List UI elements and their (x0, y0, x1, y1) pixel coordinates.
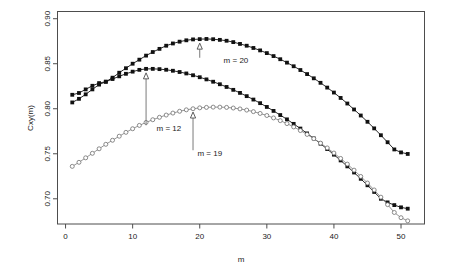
data-point (231, 88, 235, 92)
data-point (137, 58, 141, 62)
data-point (171, 42, 175, 46)
data-point (151, 118, 155, 122)
y-tick-label: 0.70 (43, 190, 52, 206)
data-point (225, 105, 229, 109)
data-point (366, 120, 370, 124)
data-point (245, 44, 249, 48)
data-point (124, 72, 128, 76)
data-point (265, 51, 269, 55)
data-point (70, 164, 74, 168)
x-axis-title: m (238, 255, 245, 264)
annotation-label: m = 19 (197, 149, 222, 158)
data-point (278, 57, 282, 61)
data-point (292, 64, 296, 68)
data-point (225, 85, 229, 89)
data-point (325, 86, 329, 90)
data-point (191, 73, 195, 77)
data-point (77, 91, 81, 95)
data-point (365, 181, 369, 185)
data-point (319, 81, 323, 85)
x-tick-label: 50 (397, 232, 406, 241)
data-point (285, 117, 289, 121)
data-point (178, 109, 182, 113)
data-point (164, 44, 168, 48)
data-point (131, 70, 135, 74)
data-point (372, 126, 376, 130)
data-point (312, 137, 316, 141)
data-point (205, 37, 209, 41)
data-point (372, 188, 376, 192)
data-point (238, 91, 242, 95)
data-point (272, 54, 276, 58)
data-point (171, 111, 175, 115)
y-axis-title: Cxy(m) (26, 105, 35, 131)
data-point (285, 61, 289, 65)
data-point (339, 156, 343, 160)
data-point (406, 207, 410, 211)
data-point (158, 47, 162, 51)
data-point (386, 203, 390, 207)
x-tick-label: 30 (262, 232, 271, 241)
data-point (252, 98, 256, 102)
data-point (90, 87, 94, 91)
data-point (111, 138, 115, 142)
data-point (278, 119, 282, 123)
data-point (238, 42, 242, 46)
y-tick-label: 0.85 (43, 55, 52, 71)
data-point (218, 82, 222, 86)
data-point (198, 106, 202, 110)
data-point (104, 80, 108, 84)
data-point (231, 106, 235, 110)
data-point (211, 80, 215, 84)
data-point (97, 83, 101, 87)
data-point (231, 40, 235, 44)
data-point (406, 152, 410, 156)
data-point (265, 105, 269, 109)
data-point (392, 210, 396, 214)
data-point (151, 67, 155, 71)
data-point (252, 46, 256, 50)
data-point (379, 133, 383, 137)
data-point (111, 77, 115, 81)
data-point (319, 141, 323, 145)
data-point (379, 195, 383, 199)
data-point (298, 68, 302, 72)
data-point (298, 129, 302, 133)
data-point (117, 74, 121, 78)
data-point (406, 219, 410, 223)
data-point (77, 160, 81, 164)
data-point (251, 110, 255, 114)
coherence-line-chart: 0.700.750.800.850.90 01020304050 Cxy(m) … (0, 0, 449, 275)
data-point (84, 87, 88, 91)
data-point (184, 38, 188, 42)
data-point (359, 174, 363, 178)
data-point (218, 105, 222, 109)
data-point (392, 148, 396, 152)
data-point (70, 101, 74, 105)
data-point (144, 54, 148, 58)
data-point (117, 134, 121, 138)
data-point (265, 114, 269, 118)
data-point (345, 102, 349, 106)
data-point (292, 125, 296, 129)
data-point (90, 84, 94, 88)
data-point (312, 76, 316, 80)
data-point (399, 205, 403, 209)
data-point (117, 71, 121, 75)
data-point (198, 37, 202, 41)
data-point (205, 77, 209, 81)
data-point (137, 123, 141, 127)
data-point (211, 37, 215, 41)
data-point (70, 93, 74, 97)
data-point (184, 72, 188, 76)
data-point (258, 111, 262, 115)
data-point (399, 216, 403, 220)
data-point (332, 91, 336, 95)
chart-figure: 0.700.750.800.850.90 01020304050 Cxy(m) … (0, 0, 449, 275)
data-point (245, 108, 249, 112)
data-point (258, 101, 262, 105)
data-point (352, 108, 356, 112)
x-tick-label: 40 (329, 232, 338, 241)
data-point (77, 97, 81, 101)
data-point (90, 151, 94, 155)
